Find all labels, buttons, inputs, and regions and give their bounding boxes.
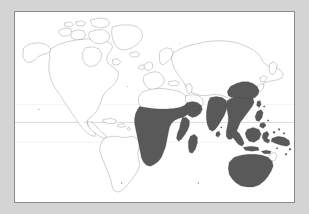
coastline-ellesmere-island <box>91 18 110 28</box>
range-sulawesi <box>262 131 270 143</box>
world-distribution-figure <box>0 0 309 214</box>
range-madagascar <box>188 134 197 153</box>
coastline-newfoundland <box>113 59 121 65</box>
island-speck-e <box>127 86 128 87</box>
coastline-north-africa <box>139 89 188 110</box>
range-island-dot-g <box>267 120 269 122</box>
coastline-iceland <box>130 52 140 57</box>
island-speck-b <box>198 182 199 183</box>
coastline-british-isles <box>144 62 153 71</box>
map-panel <box>14 11 295 203</box>
range-island-dot-i <box>221 127 222 128</box>
range-island-dot-h <box>263 106 265 108</box>
coastline-arctic-islet-a <box>76 21 86 26</box>
range-island-dot-f <box>276 147 278 149</box>
island-speck-f <box>179 43 180 44</box>
range-taiwan <box>257 101 261 108</box>
range-new-guinea <box>271 136 290 146</box>
range-island-dot-b <box>278 128 280 130</box>
coastline-hispaniola <box>118 123 126 127</box>
range-east-africa-coast <box>176 117 189 141</box>
island-speck-a <box>121 182 122 183</box>
range-australia <box>228 154 273 187</box>
range-sri-lanka <box>216 131 220 137</box>
island-speck-c <box>38 109 40 111</box>
range-island-dot-e <box>285 153 287 155</box>
coastline-scandinavia <box>159 48 173 65</box>
range-philippines <box>255 109 263 121</box>
range-island-dot-a <box>273 131 275 133</box>
coastline-lesser-antilles <box>128 127 131 130</box>
range-lesser-sunda <box>261 150 271 153</box>
world-map-svg <box>15 12 294 202</box>
range-java <box>243 146 259 151</box>
coastline-victoria-island <box>71 30 86 40</box>
coastline-cuba <box>103 118 117 123</box>
range-philippines-south <box>260 122 266 128</box>
range-island-dot-d <box>289 148 291 150</box>
coastline-ireland <box>139 65 145 70</box>
range-borneo <box>245 127 261 142</box>
coastline-alaska <box>23 43 51 63</box>
range-island-dot-c <box>283 132 285 134</box>
coastline-arctic-islet-b <box>65 22 74 27</box>
range-indian-subcontinent <box>206 97 227 132</box>
coastline-greenland <box>112 25 143 50</box>
coastline-black-sea <box>168 81 179 86</box>
island-speck-d <box>84 122 85 123</box>
coastline-banks-island <box>59 28 72 36</box>
coastline-western-europe <box>144 72 165 90</box>
coastline-south-america <box>100 136 140 192</box>
